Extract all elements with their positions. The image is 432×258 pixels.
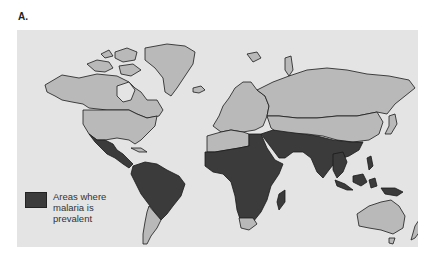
map-legend: Areas where malaria is prevalent — [25, 191, 113, 224]
region-new-zealand — [411, 220, 418, 240]
figure-label: A. — [18, 11, 28, 22]
region-indochina — [333, 152, 347, 178]
region-south-america-north — [131, 162, 185, 220]
region-tasmania — [389, 238, 395, 244]
legend-label: Areas where malaria is prevalent — [53, 191, 113, 224]
legend-swatch-malaria — [25, 192, 47, 208]
region-madagascar — [277, 190, 285, 210]
region-svalbard — [247, 52, 293, 76]
region-indonesia — [335, 174, 377, 190]
region-greenland — [145, 44, 195, 96]
region-australia — [357, 200, 405, 234]
region-new-guinea — [381, 188, 403, 196]
region-japan — [385, 114, 397, 134]
region-iceland — [193, 86, 205, 93]
region-philippines — [367, 156, 373, 170]
region-arctic-islands — [87, 48, 141, 76]
region-russia — [257, 68, 415, 118]
region-south-africa — [239, 218, 257, 230]
region-caribbean — [131, 148, 147, 152]
